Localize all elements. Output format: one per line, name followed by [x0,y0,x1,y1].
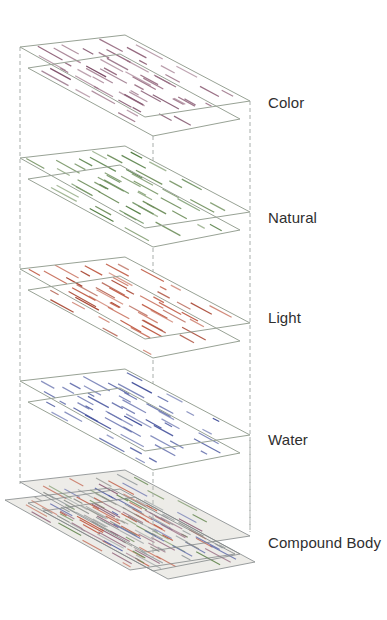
layer-light [20,257,250,358]
layer-label-natural: Natural [268,210,317,226]
layer-label-light: Light [268,310,301,326]
exploded-layers-diagram: Color Natural Light Water Compound Body [0,0,387,620]
layer-label-color: Color [268,95,304,111]
layer-compound [5,470,255,579]
layer-label-water: Water [268,432,308,448]
diagram-canvas [0,0,387,620]
layer-natural [20,146,250,247]
layer-color [20,35,250,136]
layer-label-compound: Compound Body [268,535,381,551]
layer-water [20,369,250,470]
